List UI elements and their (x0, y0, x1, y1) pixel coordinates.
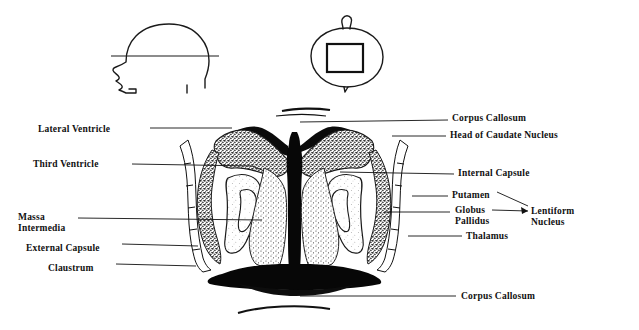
label-globus-pallidus: Globus Pallidus (455, 205, 489, 227)
label-internal-capsule: Internal Capsule (458, 168, 530, 179)
lateral-head-profile-sketch (111, 24, 219, 93)
label-third-ventricle: Third Ventricle (33, 159, 99, 170)
axial-head-outline-sketch (311, 16, 383, 92)
label-lentiform-nucleus-line2: Nucleus (531, 217, 574, 228)
label-massa-intermedia-line1: Massa (18, 212, 65, 223)
leader-external-capsule (122, 244, 198, 246)
label-massa-intermedia-line2: Intermedia (18, 223, 65, 234)
leader-lentiform-from-putamen (497, 192, 528, 206)
label-lentiform-nucleus-line1: Lentiform (531, 206, 574, 217)
leader-corpus-callosum-top (300, 120, 448, 122)
label-claustrum: Claustrum (48, 263, 94, 274)
label-lentiform-nucleus: Lentiform Nucleus (531, 206, 574, 228)
lentiform-arrowhead (521, 207, 528, 214)
label-corpus-callosum-top: Corpus Callosum (452, 113, 526, 124)
leader-internal-capsule (340, 172, 454, 174)
label-lateral-ventricle: Lateral Ventricle (38, 124, 110, 135)
brain-axial-section-drawing (180, 109, 408, 313)
label-head-of-caudate-nucleus: Head of Caudate Nucleus (450, 130, 558, 141)
label-external-capsule: External Capsule (26, 243, 100, 254)
label-putamen: Putamen (452, 190, 490, 201)
label-corpus-callosum-bottom: Corpus Callosum (461, 291, 535, 302)
label-massa-intermedia: Massa Intermedia (18, 212, 65, 234)
brain-section-figure: Lateral Ventricle Third Ventricle Massa … (0, 0, 639, 330)
label-globus-pallidus-line1: Globus (455, 205, 489, 216)
label-globus-pallidus-line2: Pallidus (455, 216, 489, 227)
label-thalamus: Thalamus (466, 231, 508, 242)
leader-claustrum (116, 264, 196, 266)
